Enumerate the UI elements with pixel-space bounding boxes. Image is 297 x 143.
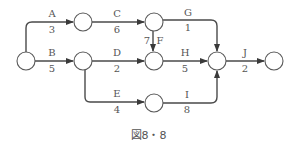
node-8 <box>265 52 283 70</box>
edge-E-name: E <box>113 88 120 99</box>
edge-J-duration: 2 <box>242 63 248 74</box>
edge-F-name: F <box>157 35 164 46</box>
node-2 <box>74 13 92 31</box>
edge-G-duration: 1 <box>185 22 191 33</box>
edge-E-duration: 4 <box>114 104 120 115</box>
edge-H-name: H <box>181 47 190 58</box>
edge-D-name: D <box>113 47 121 58</box>
edge-I-name: I <box>185 89 189 100</box>
edge-J-name: J <box>242 47 247 58</box>
activity-network-diagram: A 3 B 5 C 6 D 2 E 4 7 F G 1 H 5 I 8 J 2 <box>0 0 297 143</box>
edge-A-duration: 3 <box>49 24 55 35</box>
edge-D-duration: 2 <box>114 63 120 74</box>
edge-I-duration: 8 <box>184 104 190 115</box>
edge-B-duration: 5 <box>49 63 55 74</box>
node-4 <box>145 13 163 31</box>
node-6 <box>145 94 163 112</box>
edge-G-name: G <box>184 7 192 18</box>
edge-C-name: C <box>113 8 121 19</box>
figure-caption: 図8・8 <box>0 126 297 142</box>
node-7 <box>208 52 226 70</box>
node-1 <box>17 52 35 70</box>
edge-A-name: A <box>47 8 56 19</box>
edge-H-duration: 5 <box>182 63 188 74</box>
node-3 <box>74 52 92 70</box>
edge-B-name: B <box>48 47 55 58</box>
node-5 <box>145 52 163 70</box>
edge-I <box>163 71 217 103</box>
edge-F-duration: 7 <box>144 35 150 46</box>
edge-C-duration: 6 <box>114 24 120 35</box>
